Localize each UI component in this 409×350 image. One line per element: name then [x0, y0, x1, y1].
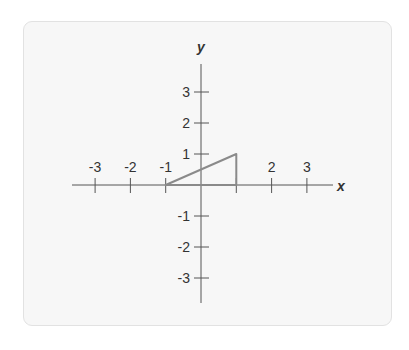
x-tick-label: -1 — [159, 159, 172, 175]
y-tick-label: -3 — [178, 270, 191, 286]
y-tick-label: -2 — [178, 239, 191, 255]
x-tick-label: 2 — [268, 159, 276, 175]
y-tick-label: 1 — [182, 146, 190, 162]
y-axis-label: y — [196, 39, 206, 55]
x-tick-label: -3 — [89, 159, 102, 175]
axes — [72, 64, 333, 303]
y-tick-label: 3 — [182, 84, 190, 100]
coordinate-plane: -3-2-123321-1-2-3 x y — [0, 0, 409, 350]
x-tick-label: -2 — [124, 159, 137, 175]
x-axis-label: x — [336, 178, 346, 194]
y-tick-label: -1 — [178, 208, 191, 224]
y-tick-label: 2 — [182, 115, 190, 131]
x-tick-label: 3 — [303, 159, 311, 175]
